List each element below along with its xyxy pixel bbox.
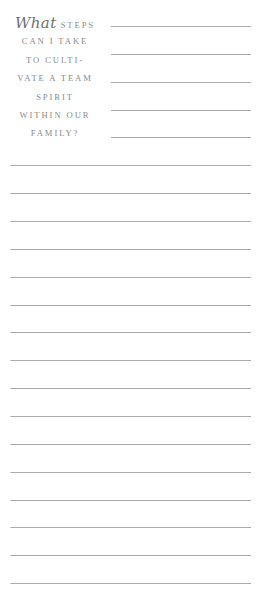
writing-line[interactable]: [11, 221, 251, 222]
prompt-text: steps: [61, 20, 95, 30]
writing-line[interactable]: [11, 555, 251, 556]
writing-line[interactable]: [11, 193, 251, 194]
writing-line[interactable]: [11, 165, 251, 166]
writing-line[interactable]: [11, 444, 251, 445]
writing-line[interactable]: [11, 388, 251, 389]
writing-line[interactable]: [111, 82, 251, 83]
writing-line[interactable]: [111, 26, 251, 27]
writing-line[interactable]: [11, 416, 251, 417]
writing-line[interactable]: [11, 249, 251, 250]
prompt-line-2: can I take: [6, 32, 104, 50]
prompt-lead-word: What: [15, 14, 57, 32]
writing-line[interactable]: [11, 500, 251, 501]
writing-line[interactable]: [11, 472, 251, 473]
writing-line[interactable]: [11, 332, 251, 333]
prompt-question: What steps can I take to culti- vate a t…: [6, 14, 104, 143]
writing-line[interactable]: [11, 305, 251, 306]
writing-line[interactable]: [111, 110, 251, 111]
writing-line[interactable]: [11, 277, 251, 278]
writing-line[interactable]: [111, 137, 251, 138]
prompt-line-4: vate a team: [6, 69, 104, 87]
writing-line[interactable]: [11, 583, 251, 584]
prompt-line-1: What steps: [6, 14, 104, 32]
writing-line[interactable]: [111, 54, 251, 55]
prompt-line-3: to culti-: [6, 51, 104, 69]
prompt-line-6: within our: [6, 106, 104, 124]
prompt-line-5: spirit: [6, 88, 104, 106]
writing-line[interactable]: [11, 360, 251, 361]
writing-line[interactable]: [11, 527, 251, 528]
prompt-line-7: family?: [6, 124, 104, 142]
journal-page: What steps can I take to culti- vate a t…: [0, 0, 268, 590]
